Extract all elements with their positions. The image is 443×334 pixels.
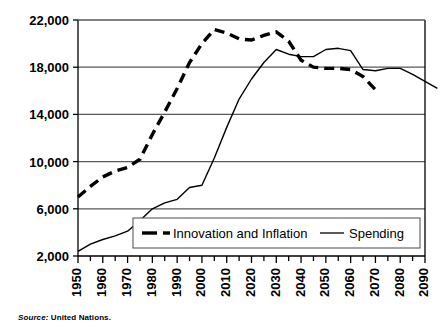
y-tick-label: 10,000 xyxy=(29,155,69,170)
x-axis-tick-labels: 1950196019701980199020002010202020302040… xyxy=(69,268,431,297)
x-tick-label: 2020 xyxy=(243,268,258,297)
line-chart: 2,0006,00010,00014,00018,00022,000 19501… xyxy=(0,0,443,334)
y-tick-label: 22,000 xyxy=(29,13,69,28)
y-tick-label: 14,000 xyxy=(29,107,69,122)
x-tick-label: 2070 xyxy=(367,268,382,297)
y-tick-label: 2,000 xyxy=(36,249,69,264)
x-axis-ticks xyxy=(78,256,425,263)
chart-legend: Innovation and Inflation Spending xyxy=(133,218,420,248)
legend-label-spending: Spending xyxy=(349,226,404,241)
x-tick-label: 2040 xyxy=(293,268,308,297)
y-axis-ticks xyxy=(73,20,78,256)
y-tick-label: 6,000 xyxy=(36,202,69,217)
y-axis-tick-labels: 2,0006,00010,00014,00018,00022,000 xyxy=(29,13,69,264)
x-tick-label: 2060 xyxy=(342,268,357,297)
x-tick-label: 1950 xyxy=(69,268,84,297)
y-tick-label: 18,000 xyxy=(29,60,69,75)
source-label: Source: xyxy=(18,313,49,322)
x-tick-label: 1970 xyxy=(119,268,134,297)
source-value: United Nations. xyxy=(51,313,111,322)
x-tick-label: 2010 xyxy=(218,268,233,297)
x-tick-label: 1990 xyxy=(169,268,184,297)
chart-figure: 2,0006,00010,00014,00018,00022,000 19501… xyxy=(0,0,443,334)
x-tick-label: 1980 xyxy=(144,268,159,297)
x-tick-label: 2080 xyxy=(392,268,407,297)
x-tick-label: 2090 xyxy=(416,268,431,297)
x-tick-label: 1960 xyxy=(94,268,109,297)
source-note: Source: United Nations. xyxy=(18,313,111,322)
x-tick-label: 2000 xyxy=(193,268,208,297)
x-tick-label: 2030 xyxy=(268,268,283,297)
x-tick-label: 2050 xyxy=(317,268,332,297)
legend-label-innovation-and-inflation: Innovation and Inflation xyxy=(173,226,307,241)
